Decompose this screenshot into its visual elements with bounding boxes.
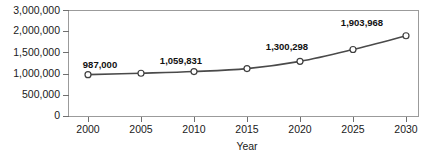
data-point-marker-2010 (191, 69, 197, 75)
data-point-marker-2030 (403, 33, 409, 39)
data-point-marker-2000 (85, 72, 91, 78)
y-axis-label-1: 500,000 (22, 88, 60, 100)
data-label-2010: 1,059,831 (160, 55, 203, 66)
data-label-2020: 1,300,298 (266, 41, 308, 52)
y-axis-label-4: 2,000,000 (13, 24, 60, 36)
x-axis-ticks (88, 117, 406, 123)
x-axis-labels: 2000 2005 2010 2015 2020 2025 2030 (76, 123, 418, 135)
series-markers (85, 33, 409, 78)
x-axis-label-2010: 2010 (182, 123, 206, 135)
x-axis-label-2015: 2015 (235, 123, 259, 135)
data-point-marker-2020 (297, 58, 303, 64)
data-label-2000: 987,000 (83, 59, 117, 70)
x-axis-label-2020: 2020 (288, 123, 312, 135)
chart-canvas: 0 500,000 1,000,000 1,500,000 2,000,000 … (0, 0, 436, 160)
data-point-marker-2015 (244, 66, 250, 72)
y-axis-label-5: 3,000,000 (13, 4, 60, 16)
x-axis-label-2000: 2000 (76, 123, 100, 135)
y-axis-label-0: 0 (54, 109, 60, 121)
data-point-labels: 987,000 1,059,831 1,300,298 1,903,968 (83, 17, 383, 70)
y-axis-label-3: 1,500,000 (13, 46, 60, 58)
x-axis-label-2025: 2025 (341, 123, 365, 135)
x-axis-label-2005: 2005 (129, 123, 153, 135)
data-label-2030: 1,903,968 (341, 17, 383, 28)
y-axis-labels: 0 500,000 1,000,000 1,500,000 2,000,000 … (13, 4, 60, 121)
line-chart: 0 500,000 1,000,000 1,500,000 2,000,000 … (0, 0, 436, 160)
x-axis-label-2030: 2030 (394, 123, 418, 135)
data-point-marker-2025 (350, 47, 356, 53)
x-axis-title: Year (236, 140, 258, 152)
y-axis-label-2: 1,000,000 (13, 67, 60, 79)
y-axis-ticks (63, 11, 69, 117)
data-point-marker-2005 (138, 70, 144, 76)
